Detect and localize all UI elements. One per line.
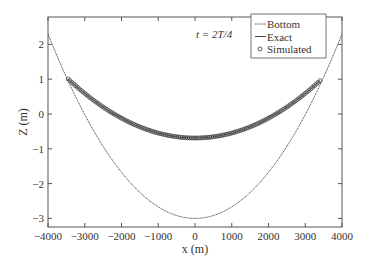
x-tick-label: 3000: [294, 230, 317, 242]
x-tick-label: 4000: [331, 230, 354, 242]
chart: −4000−3000−2000−100001000200030004000−3−…: [0, 0, 371, 270]
curves: [48, 34, 342, 218]
legend: BottomExactSimulated: [251, 14, 326, 58]
y-axis-label: Z (m): [16, 108, 30, 136]
bottom-curve: [48, 34, 342, 218]
time-annotation: t = 2T/4: [196, 28, 233, 40]
x-tick-label: −3000: [71, 230, 100, 242]
y-tick-label: 2: [39, 38, 45, 50]
y-tick-label: 1: [39, 73, 45, 85]
y-tick-label: −1: [32, 143, 44, 155]
y-tick-label: −2: [32, 178, 44, 190]
x-tick-label: 0: [192, 230, 198, 242]
x-tick-label: −1000: [144, 230, 173, 242]
legend-label-exact: Exact: [267, 31, 292, 43]
legend-label-simulated: Simulated: [267, 43, 312, 55]
simulated-markers: [66, 77, 322, 140]
y-tick-label: −3: [32, 212, 44, 224]
legend-label-bottom: Bottom: [267, 18, 300, 30]
y-tick-label: 0: [39, 108, 45, 120]
x-tick-label: 2000: [258, 230, 281, 242]
x-tick-label: −4000: [34, 230, 63, 242]
x-axis-label: x (m): [182, 242, 208, 256]
x-tick-label: 1000: [221, 230, 244, 242]
x-tick-label: −2000: [107, 230, 136, 242]
